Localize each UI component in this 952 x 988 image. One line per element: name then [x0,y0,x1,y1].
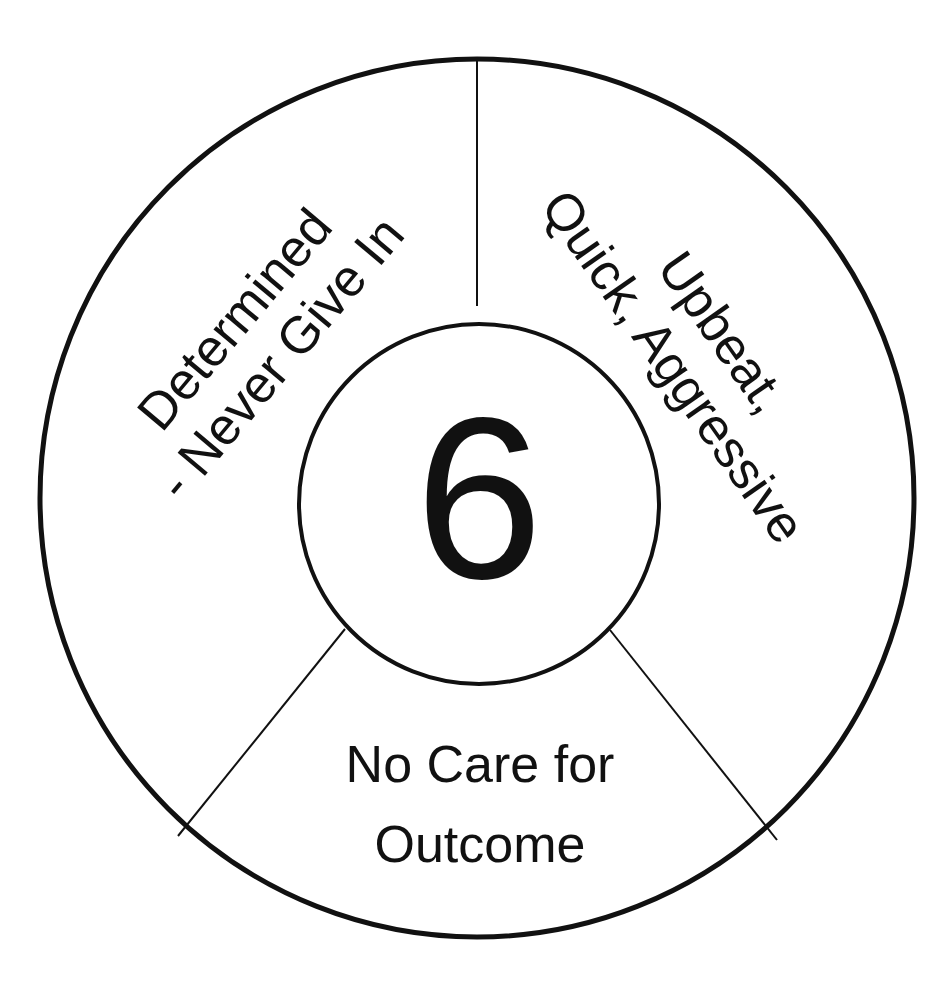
segment-bottom-line-2: Outcome [375,815,586,873]
segment-bottom-line-1: No Care for [346,735,615,793]
center-number: 6 [415,370,543,627]
divider-lower-left [178,629,345,836]
personality-wheel-diagram: 6 Determined - Never Give In Upbeat, Qui… [0,0,952,988]
divider-lower-right [610,630,777,840]
